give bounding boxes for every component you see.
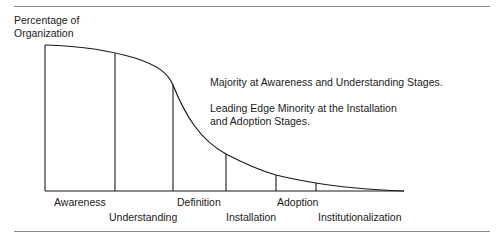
- y-axis-label-line1: Percentage of: [14, 14, 79, 26]
- stage-label-installation: Installation: [226, 211, 276, 223]
- annotation-leading-edge-line2: and Adoption Stages.: [210, 115, 310, 127]
- stage-label-understanding: Understanding: [109, 211, 177, 223]
- stage-label-institutionalization: Institutionalization: [318, 211, 401, 223]
- stage-label-awareness: Awareness: [54, 196, 106, 208]
- annotation-majority: Majority at Awareness and Understanding …: [210, 76, 443, 88]
- stage-label-definition: Definition: [177, 196, 221, 208]
- y-axis-label-line2: Organization: [14, 27, 74, 39]
- annotation-leading-edge-line1: Leading Edge Minority at the Installatio…: [210, 102, 397, 114]
- stage-label-adoption: Adoption: [277, 196, 318, 208]
- adoption-curve-figure: Percentage of Organization Majority at A…: [0, 0, 504, 241]
